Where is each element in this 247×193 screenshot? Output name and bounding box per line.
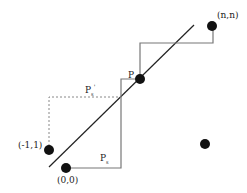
ps-prime-mark: ' (94, 83, 96, 90)
point-origin (61, 163, 71, 173)
label-ps: Ps (100, 154, 109, 165)
ps-sub: s (106, 159, 109, 165)
label-neg: (-1,1) (18, 141, 42, 150)
path-upper (140, 26, 213, 79)
path-ps-prime-dotted (49, 97, 121, 150)
label-p: P (128, 71, 134, 80)
label-ps-prime: Ps' (85, 84, 95, 97)
ps-prime-sub: s (91, 91, 94, 97)
lattice-path-diagram: (n,n) P Ps' (-1,1) Ps (0,0) (0, 0, 247, 193)
diagram-canvas (0, 0, 247, 193)
point-p (135, 74, 145, 84)
point-end (207, 21, 217, 31)
point-neg (44, 145, 54, 155)
label-end: (n,n) (217, 11, 238, 20)
label-origin: (0,0) (57, 176, 78, 185)
point-lone (200, 139, 210, 149)
